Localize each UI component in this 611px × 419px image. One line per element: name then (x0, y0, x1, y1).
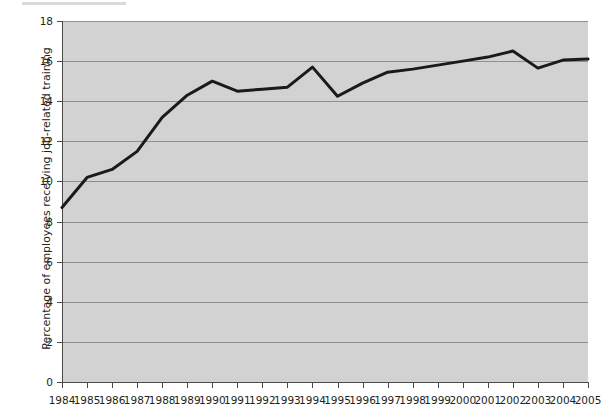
x-tick-mark-1994 (312, 383, 313, 388)
y-tick-mark-16 (57, 61, 62, 62)
x-tick-mark-2001 (488, 383, 489, 388)
gridline-y-2 (62, 342, 588, 343)
y-tick-label-18: 18 (26, 16, 53, 26)
y-tick-mark-4 (57, 302, 62, 303)
x-tick-mark-1987 (137, 383, 138, 388)
x-tick-mark-1998 (413, 383, 414, 388)
x-tick-mark-1991 (237, 383, 238, 388)
x-tick-mark-1992 (262, 383, 263, 388)
y-tick-mark-14 (57, 101, 62, 102)
x-tick-mark-1996 (363, 383, 364, 388)
y-axis-line (62, 21, 63, 383)
chart-figure: 024681012141618 198419851986198719881989… (0, 0, 611, 419)
gridline-y-8 (62, 222, 588, 223)
y-tick-mark-8 (57, 222, 62, 223)
y-tick-mark-12 (57, 141, 62, 142)
x-axis-line (62, 382, 589, 383)
x-tick-mark-2004 (563, 383, 564, 388)
x-tick-mark-1997 (388, 383, 389, 388)
plot-area (62, 21, 588, 382)
y-tick-mark-6 (57, 262, 62, 263)
x-tick-mark-1990 (212, 383, 213, 388)
gridline-y-4 (62, 302, 588, 303)
x-tick-mark-1993 (287, 383, 288, 388)
x-tick-mark-1989 (187, 383, 188, 388)
x-tick-mark-2002 (513, 383, 514, 388)
y-tick-mark-10 (57, 181, 62, 182)
gridline-y-12 (62, 141, 588, 142)
x-tick-label-2005: 2005 (568, 394, 608, 406)
x-tick-mark-1999 (438, 383, 439, 388)
y-tick-label-0: 0 (26, 377, 53, 387)
gridline-y-10 (62, 181, 588, 182)
x-tick-mark-2003 (538, 383, 539, 388)
gridline-y-18 (62, 21, 588, 22)
gridline-y-6 (62, 262, 588, 263)
y-tick-mark-2 (57, 342, 62, 343)
gridline-y-16 (62, 61, 588, 62)
x-tick-mark-1988 (162, 383, 163, 388)
y-axis-label: Percentage of employees receiving job-re… (40, 29, 53, 369)
x-tick-mark-1984 (62, 383, 63, 388)
x-tick-mark-2000 (463, 383, 464, 388)
gridline-y-14 (62, 101, 588, 102)
x-tick-mark-1986 (112, 383, 113, 388)
x-tick-mark-1995 (338, 383, 339, 388)
y-tick-mark-18 (57, 21, 62, 22)
x-tick-mark-2005 (588, 383, 589, 388)
page-rule-decoration (22, 2, 126, 5)
x-tick-mark-1985 (87, 383, 88, 388)
